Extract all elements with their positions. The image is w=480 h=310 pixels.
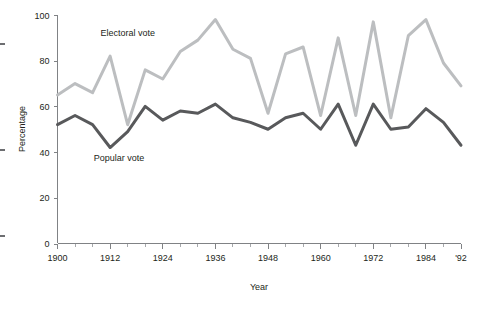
y-tick-label-40: 40 (39, 148, 49, 158)
y-tick-label-80: 80 (39, 56, 49, 66)
line-chart: 020406080100 190019121924193619481960197… (0, 0, 480, 310)
series-line-popular-vote (58, 104, 462, 147)
x-tick-label-1984: 1984 (416, 253, 436, 263)
x-tick-label-1912: 1912 (100, 253, 120, 263)
x-axis-title: Year (250, 282, 268, 292)
x-tick-label-1936: 1936 (205, 253, 225, 263)
x-tick-label-1900: 1900 (47, 253, 67, 263)
y-axis-title: Percentage (17, 106, 27, 152)
y-tick-label-20: 20 (39, 193, 49, 203)
chart-edge-marks (0, 44, 5, 236)
y-tick-label-0: 0 (44, 239, 49, 249)
y-tick-label-100: 100 (34, 11, 49, 21)
x-tick-label-1948: 1948 (258, 253, 278, 263)
x-tick-label-1972: 1972 (363, 253, 383, 263)
series-label-popular-vote: Popular vote (94, 153, 145, 163)
y-axis: 020406080100 (34, 11, 57, 250)
x-axis: 19001912192419361948196019721984'92 (47, 244, 466, 263)
y-tick-label-60: 60 (39, 102, 49, 112)
x-tick-label-1992: '92 (455, 253, 467, 263)
series-annotations: Electoral votePopular vote (94, 28, 155, 164)
chart-figure: 020406080100 190019121924193619481960197… (0, 0, 480, 310)
series-label-electoral-vote: Electoral vote (100, 28, 155, 38)
x-tick-label-1960: 1960 (311, 253, 331, 263)
x-tick-label-1924: 1924 (153, 253, 173, 263)
series-lines (58, 20, 462, 148)
